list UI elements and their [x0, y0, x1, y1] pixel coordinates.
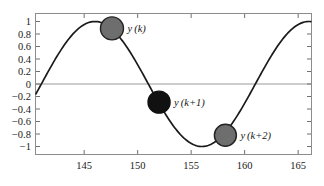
- x-tick-label: 155: [183, 160, 199, 171]
- x-tick-label: 165: [290, 160, 306, 171]
- y-tick-label: 0: [26, 79, 31, 90]
- sample-marker-sample-k-plus-1[interactable]: [148, 91, 170, 113]
- figure-container: 10.80.60.40.20−0.2−0.4−0.6−0.8−1 1451501…: [0, 0, 324, 186]
- y-tick-label: 0.2: [18, 66, 31, 77]
- y-tick-label: −0.2: [12, 91, 31, 102]
- y-tick-label: −0.8: [12, 129, 31, 140]
- x-tick-label: 160: [237, 160, 253, 171]
- y-tick-label: −0.6: [12, 116, 31, 127]
- y-tick-label: 0.8: [18, 29, 31, 40]
- sample-marker-sample-k[interactable]: [100, 17, 123, 40]
- y-tick-label: −0.4: [12, 104, 32, 115]
- marker-label-sample-k-plus-2: y(k+2): [239, 130, 271, 142]
- y-tick-label: −1: [20, 141, 31, 152]
- sampled-sinusoid-chart: 10.80.60.40.20−0.2−0.4−0.6−0.8−1 1451501…: [0, 0, 324, 186]
- y-tick-label: 0.4: [18, 54, 32, 65]
- x-tick-label: 150: [130, 160, 146, 171]
- sample-marker-sample-k-plus-2[interactable]: [214, 124, 236, 146]
- marker-label-sample-k-plus-1: y(k+1): [173, 97, 205, 109]
- marker-label-sample-k: y(k): [126, 23, 146, 35]
- y-tick-label: 0.6: [18, 41, 31, 52]
- x-tick-label: 145: [76, 160, 92, 171]
- y-tick-label: 1: [26, 16, 31, 27]
